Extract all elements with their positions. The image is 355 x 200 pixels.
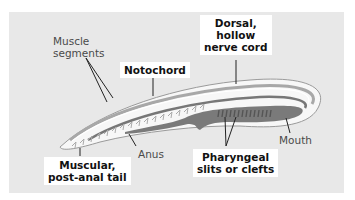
label-muscle-segments: Muscle segments bbox=[53, 35, 105, 59]
leader-muscle-2 bbox=[86, 58, 113, 98]
leader-muscle-1 bbox=[86, 58, 107, 102]
label-slits-line1: Pharyngeal bbox=[197, 151, 274, 163]
label-anus-text: Anus bbox=[138, 148, 164, 160]
label-anus: Anus bbox=[138, 148, 164, 160]
label-nerve-cord-line3: nerve cord bbox=[204, 41, 268, 53]
label-tail-line1: Muscular, bbox=[48, 159, 127, 171]
label-dorsal-nerve-cord: Dorsal, hollow nerve cord bbox=[200, 15, 272, 55]
leader-anus bbox=[129, 134, 136, 146]
label-nerve-cord-line2: hollow bbox=[204, 29, 268, 41]
label-muscle-segments-line1: Muscle bbox=[53, 35, 105, 47]
label-mouth-text: Mouth bbox=[279, 134, 312, 146]
label-mouth: Mouth bbox=[279, 134, 312, 146]
label-tail: Muscular, post-anal tail bbox=[44, 157, 131, 185]
label-notochord: Notochord bbox=[120, 62, 190, 78]
label-pharyngeal-slits: Pharyngeal slits or clefts bbox=[193, 149, 278, 177]
label-tail-line2: post-anal tail bbox=[48, 171, 127, 183]
label-slits-line2: slits or clefts bbox=[197, 163, 274, 175]
label-notochord-text: Notochord bbox=[124, 64, 186, 76]
label-nerve-cord-line1: Dorsal, bbox=[204, 17, 268, 29]
label-muscle-segments-line2: segments bbox=[53, 47, 105, 59]
